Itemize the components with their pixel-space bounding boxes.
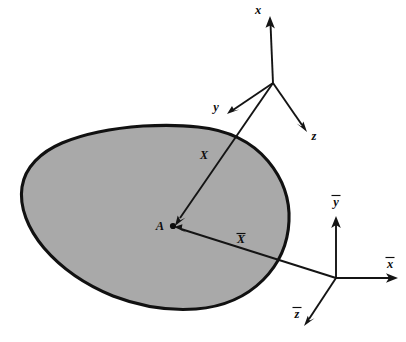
axis-xbar-label-group: x (386, 257, 395, 271)
axis-y-line (233, 83, 273, 110)
axis-x-line (271, 24, 274, 83)
axis-xbar-label: x (386, 257, 393, 271)
axis-x-label: x (254, 3, 261, 17)
spatial-frame: x y z (293, 195, 399, 326)
axis-z-line (273, 83, 302, 125)
point-A-dot (170, 223, 176, 229)
material-frame: x y z (211, 3, 316, 143)
axis-zbar-label: z (294, 307, 300, 321)
axis-y-label: y (211, 100, 219, 114)
axis-zbar-label-group: z (293, 307, 302, 321)
vector-diagram: x y z x y (0, 0, 406, 342)
point-A-label: A (155, 219, 164, 233)
axis-ybar-label: y (331, 195, 339, 209)
vector-X-label: X (199, 148, 209, 162)
deformable-body-blob (21, 125, 289, 309)
figure-canvas: x y z x y (0, 0, 406, 342)
axis-ybar-label-group: y (331, 195, 340, 209)
vector-Xbar-label-group: X (236, 232, 246, 246)
axis-zbar-line (309, 278, 336, 319)
vector-Xbar-label: X (236, 232, 246, 246)
axis-z-label: z (311, 129, 317, 143)
